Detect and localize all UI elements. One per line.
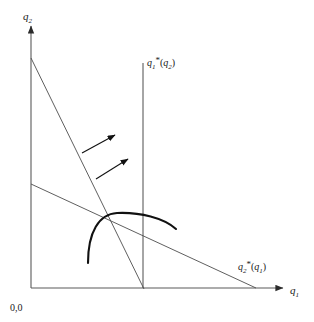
q2-axis-label: q2 — [23, 10, 33, 25]
q1-axis-label: q1 — [290, 284, 299, 299]
firm2-best-response-label: q2*(q1) — [238, 259, 266, 275]
figure-svg: q2 q1 q1*(q2) q2*(q1) 0,0 — [0, 0, 314, 322]
direction-arrow-lower — [96, 159, 128, 179]
diagram-canvas: q2 q1 q1*(q2) q2*(q1) 0,0 — [0, 0, 314, 322]
origin-label: 0,0 — [10, 302, 23, 313]
direction-arrow-upper — [82, 135, 115, 153]
isoprofit-arc — [88, 213, 176, 263]
firm1-best-response-label: q1*(q2) — [147, 55, 175, 71]
